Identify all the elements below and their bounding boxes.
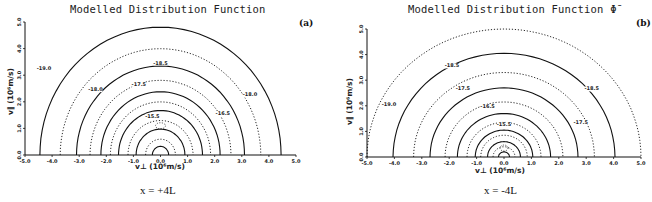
x-tick-label: 4.0 xyxy=(264,158,273,164)
contour-line xyxy=(499,152,510,157)
y-axis-label: v∥ (10⁶m/s) xyxy=(345,78,354,125)
panel-caption: x = +4L xyxy=(140,184,176,196)
y-tick-label: 4.0 xyxy=(358,50,364,59)
contour-line xyxy=(488,142,521,157)
x-axis-label: v⊥ (10⁶m/s) xyxy=(135,162,185,171)
x-tick-label: 5.0 xyxy=(637,160,646,166)
x-tick-label: -2.0 xyxy=(101,158,112,164)
contour-line xyxy=(110,102,210,155)
y-tick-label: 0.0 xyxy=(16,150,22,159)
x-tick-label: 4.0 xyxy=(609,160,618,166)
y-tick-label: 5.0 xyxy=(16,17,22,26)
x-axis-label: v⊥ (10⁶m/s) xyxy=(475,166,525,175)
contour-label: -18.0 xyxy=(88,86,103,92)
chart-panel-b: Modelled Distribution Function Φ̄ (b) -5… xyxy=(330,0,652,202)
contour-line xyxy=(119,111,203,156)
y-axis-label: v∥ (10⁶m/s) xyxy=(6,68,15,115)
contour-label: -15.5 xyxy=(497,121,512,127)
contour-line xyxy=(475,130,533,157)
contour-line xyxy=(414,73,595,158)
y-tick-label: 1.0 xyxy=(16,123,22,132)
y-tick-label: 2.0 xyxy=(16,97,22,106)
contour-label: -18.5 xyxy=(153,60,168,66)
y-tick-label: 5.0 xyxy=(358,24,364,33)
peak-contour xyxy=(156,123,166,129)
contour-label: -19.0 xyxy=(37,65,52,71)
y-tick-label: 3.0 xyxy=(16,70,22,79)
contour-label: -19.0 xyxy=(382,101,397,107)
x-tick-label: 5.0 xyxy=(292,158,301,164)
y-tick-label: 1.0 xyxy=(358,126,364,135)
panel-caption: x = -4L xyxy=(484,184,517,196)
x-tick-label: -4.0 xyxy=(389,160,400,166)
y-tick-label: 4.0 xyxy=(16,44,22,53)
x-tick-label: -4.0 xyxy=(47,158,58,164)
contour-line xyxy=(128,121,193,156)
chart-panel-a: Modelled Distribution Function (a) -5.0-… xyxy=(0,0,330,202)
peak-contour xyxy=(500,145,508,151)
x-tick-label: 2.0 xyxy=(210,158,219,164)
x-tick-label: 3.0 xyxy=(582,160,591,166)
contour-label: -18.0 xyxy=(243,91,258,97)
contour-line xyxy=(152,146,168,155)
contour-label: -17.5 xyxy=(456,85,471,91)
contour-line xyxy=(101,92,220,155)
contour-label: -15.5 xyxy=(145,113,160,119)
contour-line xyxy=(146,139,176,155)
x-tick-label: -3.0 xyxy=(416,160,427,166)
x-tick-label: -3.0 xyxy=(74,158,85,164)
x-tick-label: 2.0 xyxy=(554,160,563,166)
contour-label: -17.5 xyxy=(132,81,147,87)
contour-line xyxy=(457,114,550,158)
contour-plot: -5.0-4.0-3.0-2.0-1.00.01.02.03.04.05.0 0… xyxy=(0,0,330,202)
contour-plot: -5.0-4.0-3.0-2.0-1.00.01.02.03.04.05.0 0… xyxy=(330,0,652,202)
y-tick-label: 2.0 xyxy=(358,101,364,110)
contour-label: -16.5 xyxy=(480,103,495,109)
contour-label: -18.5 xyxy=(445,62,460,68)
x-tick-label: 3.0 xyxy=(237,158,246,164)
contour-line xyxy=(367,29,641,157)
contour-label: -16.5 xyxy=(216,110,231,116)
y-tick-label: 0.0 xyxy=(358,152,364,161)
x-tick-label: 1.0 xyxy=(527,160,536,166)
contour-label: -18.5 xyxy=(584,85,599,91)
contour-line xyxy=(136,129,185,155)
contour-label: -17.5 xyxy=(574,119,589,125)
x-tick-label: -2.0 xyxy=(444,160,455,166)
contour-line xyxy=(445,102,563,157)
y-tick-label: 3.0 xyxy=(358,75,364,84)
